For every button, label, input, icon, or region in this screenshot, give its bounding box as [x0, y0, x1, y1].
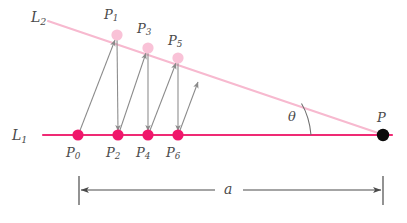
label-angle-theta: θ [288, 110, 296, 123]
point-p-vertex [377, 129, 389, 141]
label-point-p6: P6 [166, 146, 180, 161]
label-point-p5: P5 [168, 34, 182, 49]
geometry-figure: L2 L1 P1 P3 P5 P0 P2 P4 P6 θ P a [0, 0, 407, 223]
figure-canvas [0, 0, 407, 223]
arrow-p6-upward [179, 82, 198, 133]
point-p0 [72, 129, 83, 140]
arrow-p1-to-p2 [117, 39, 118, 131]
label-point-p4: P4 [136, 146, 150, 161]
label-point-p: P [377, 111, 386, 124]
point-p3 [142, 42, 153, 53]
line-L2 [48, 21, 384, 135]
label-point-p3: P3 [137, 22, 151, 37]
arrow-p2-to-p3 [119, 53, 146, 133]
point-p2 [112, 129, 123, 140]
point-p4 [142, 129, 153, 140]
label-line-L1: L1 [12, 128, 27, 144]
label-dimension-a: a [224, 182, 232, 196]
point-p1 [111, 29, 122, 40]
arrow-p4-to-p5 [149, 63, 176, 133]
label-point-p2: P2 [106, 146, 120, 161]
point-p6 [172, 129, 183, 140]
label-line-L2: L2 [31, 10, 46, 26]
point-p5 [172, 52, 183, 63]
label-point-p1: P1 [104, 8, 118, 23]
label-point-p0: P0 [66, 146, 80, 161]
arrow-p0-to-p1 [79, 40, 115, 133]
